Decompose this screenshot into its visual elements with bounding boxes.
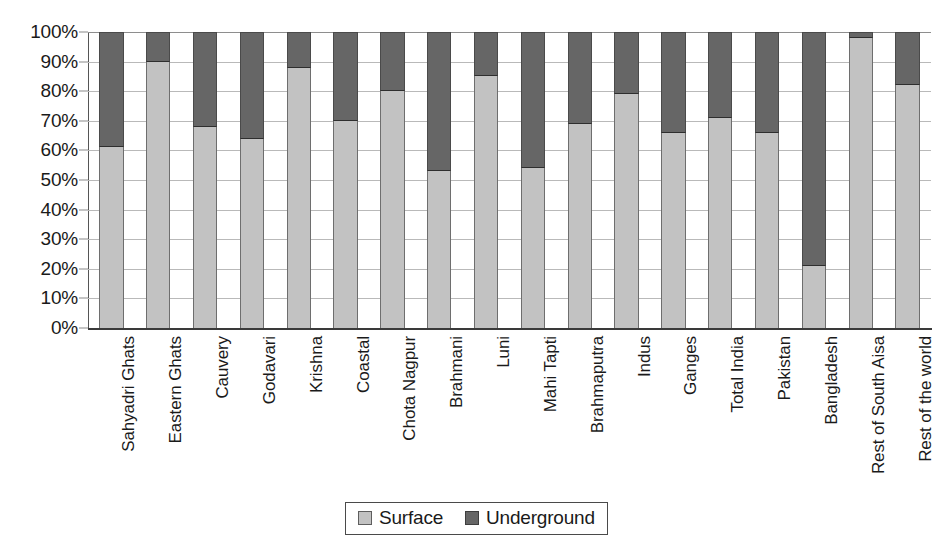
bar-segment-underground[interactable] [146,32,170,62]
bar-segment-underground[interactable] [521,32,545,168]
y-tick-mark [79,239,88,240]
bar-group[interactable] [474,32,498,328]
x-axis-category-label: Eastern Ghats [166,336,186,443]
bar-group[interactable] [661,32,685,328]
bar-group[interactable] [802,32,826,328]
bar-group[interactable] [849,32,873,328]
x-axis-category-label: Brahmani [447,336,467,408]
bar-segment-surface[interactable] [193,127,217,328]
bar-segment-surface[interactable] [661,133,685,328]
bar-segment-surface[interactable] [427,171,451,328]
legend-label: Surface [379,507,443,529]
y-tick-label: 90% [41,51,78,73]
x-axis-category-label: Sahyadri Ghats [119,336,139,452]
x-axis-category-label: Pakistan [775,336,795,400]
x-axis-category-label: Total India [728,336,748,412]
bar-segment-surface[interactable] [521,168,545,328]
x-axis-category-label: Rest of the world [916,336,936,462]
y-tick-label: 10% [41,287,78,309]
bar-segment-underground[interactable] [802,32,826,266]
bar-segment-surface[interactable] [568,124,592,328]
bar-segment-surface[interactable] [802,266,826,328]
bar-segment-underground[interactable] [333,32,357,121]
legend-swatch-icon [465,511,479,525]
bar-group[interactable] [193,32,217,328]
y-tick-mark [79,268,88,269]
bar-group[interactable] [568,32,592,328]
y-tick-label: 100% [30,21,78,43]
bar-segment-underground[interactable] [708,32,732,118]
x-axis-category-label: Cauvery [213,336,233,399]
bar-segment-surface[interactable] [333,121,357,328]
bar-segment-underground[interactable] [661,32,685,133]
bar-segment-underground[interactable] [380,32,404,91]
y-tick-label: 70% [41,110,78,132]
bar-group[interactable] [708,32,732,328]
chart-legend: SurfaceUnderground [345,502,608,535]
legend-item[interactable]: Underground [465,507,595,529]
bar-segment-underground[interactable] [193,32,217,127]
stacked-bar-chart: 0%10%20%30%40%50%60%70%80%90%100% Sahyad… [0,0,941,557]
y-tick-mark [79,120,88,121]
bar-segment-surface[interactable] [99,147,123,328]
bar-segment-underground[interactable] [568,32,592,124]
x-axis-category-label: Krishna [307,336,327,393]
bar-group[interactable] [895,32,919,328]
bar-group[interactable] [333,32,357,328]
bar-segment-surface[interactable] [755,133,779,328]
y-tick-mark [79,209,88,210]
y-tick-mark [79,180,88,181]
x-axis-category-label: Bangladesh [822,336,842,425]
y-tick-label: 80% [41,80,78,102]
bar-group[interactable] [380,32,404,328]
bar-group[interactable] [427,32,451,328]
bar-segment-surface[interactable] [708,118,732,328]
x-axis-category-label: Godavari [260,336,280,404]
bar-segment-underground[interactable] [895,32,919,85]
y-tick-label: 50% [41,169,78,191]
bar-group[interactable] [240,32,264,328]
bar-segment-surface[interactable] [287,68,311,328]
y-tick-mark [79,91,88,92]
bar-segment-surface[interactable] [849,38,873,328]
y-tick-mark [79,298,88,299]
legend-label: Underground [486,507,595,529]
legend-item[interactable]: Surface [358,507,443,529]
bar-segment-surface[interactable] [614,94,638,328]
bar-segment-surface[interactable] [895,85,919,328]
bar-segment-surface[interactable] [380,91,404,328]
x-axis-category-label: Brahmaputra [588,336,608,433]
bar-group[interactable] [99,32,123,328]
bar-group[interactable] [614,32,638,328]
y-tick-mark [79,328,88,329]
y-tick-label: 0% [51,317,78,339]
x-axis-category-label: Coastal [354,336,374,393]
bar-segment-surface[interactable] [474,76,498,328]
bar-group[interactable] [521,32,545,328]
x-axis-line [88,328,932,330]
legend-swatch-icon [358,511,372,525]
y-axis: 0%10%20%30%40%50%60%70%80%90%100% [0,32,78,328]
x-axis-category-label: Rest of South Aisa [869,336,889,474]
bar-group[interactable] [755,32,779,328]
bar-segment-underground[interactable] [849,32,873,38]
x-axis-labels: Sahyadri GhatsEastern GhatsCauveryGodava… [88,332,931,497]
bar-segment-underground[interactable] [755,32,779,133]
x-axis-category-label: Ganges [681,336,701,395]
bar-segment-underground[interactable] [99,32,123,147]
bar-segment-surface[interactable] [240,139,264,328]
bar-group[interactable] [146,32,170,328]
bar-segment-underground[interactable] [240,32,264,139]
bar-group[interactable] [287,32,311,328]
bar-segment-underground[interactable] [427,32,451,171]
bar-segment-underground[interactable] [614,32,638,94]
y-tick-label: 60% [41,139,78,161]
plot-area [88,32,931,328]
bar-segment-underground[interactable] [287,32,311,68]
x-axis-category-label: Chota Nagpur [400,336,420,441]
y-tick-mark [79,61,88,62]
bar-segment-underground[interactable] [474,32,498,76]
x-axis-category-label: Indus [635,336,655,377]
bar-segment-surface[interactable] [146,62,170,328]
y-tick-label: 20% [41,258,78,280]
